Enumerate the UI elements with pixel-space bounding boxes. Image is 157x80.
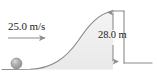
diagram-canvas [0,0,157,80]
velocity-label: 25.0 m/s [8,21,45,32]
physics-diagram: 25.0 m/s 28.0 m [0,0,157,80]
ball [11,58,22,69]
height-label: 28.0 m [98,30,127,41]
